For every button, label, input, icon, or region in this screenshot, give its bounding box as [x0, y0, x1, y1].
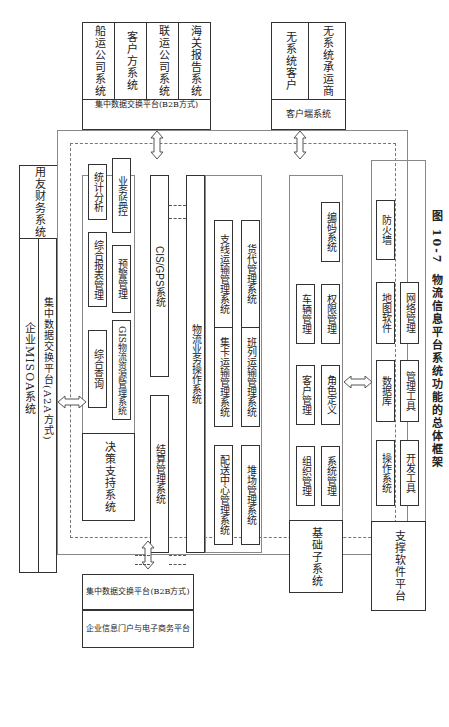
module-freight-forwarding: 货代管理系统	[241, 220, 260, 328]
module-customer-management: 客户管理	[296, 365, 315, 425]
module-truck-transport: 集卡运输管理系统	[214, 327, 233, 427]
support-software-platform: 支撑软件平台	[371, 521, 426, 611]
base-subsystem: 基础子系统	[289, 520, 343, 593]
connector-arrows-settlement	[169, 555, 186, 565]
module-permission-management: 权限管理	[321, 284, 340, 344]
decision-support-system: 决策支持系统	[82, 433, 135, 521]
module-organization-management: 组织管理	[296, 446, 315, 506]
module-role-definition: 角色定义	[321, 365, 340, 425]
module-management-tools: 管理工具	[400, 360, 419, 422]
connector-arrows-gps	[169, 205, 186, 219]
external-system-customer: 客户方系统	[114, 22, 147, 100]
client-side-system: 客户端系统	[271, 99, 346, 130]
module-rail-transport: 班列运输管理系统	[241, 327, 260, 427]
b2b-exchange-top: 集中数据交换平台(B2B方式)	[82, 99, 211, 130]
figure-caption-number: 图 10-7	[428, 210, 444, 264]
module-yard-management: 堆场管理系统	[241, 445, 260, 545]
client-no-system-carrier: 无系统承运商	[308, 22, 346, 100]
connector-arrows-decision	[135, 555, 150, 565]
module-firewall: 防火墙	[376, 200, 395, 260]
b2b-exchange-bottom: 集中数据交换平台(B2B方式)	[82, 574, 194, 610]
figure-caption: 图 10-7 物流信息平台系统功能的总体框架	[428, 210, 444, 510]
module-statistical-analysis: 统计分析	[88, 164, 107, 220]
finance-system-box: 用友财务系统	[19, 165, 58, 239]
external-system-intermodal: 联运公司系统	[146, 22, 179, 100]
double-arrow-support	[343, 375, 373, 389]
client-systems-group: 无系统客户 无系统承运商 客户端系统	[271, 22, 346, 130]
enterprise-portal-ecommerce: 企业信息门户与电子商务平台	[82, 610, 194, 648]
external-system-shipping: 船运公司系统	[82, 22, 115, 100]
module-vehicle-management: 车辆管理	[296, 284, 315, 344]
module-alert-management: 预警管理	[112, 245, 131, 313]
cis-gps-system: CIS/GPS系统	[150, 175, 169, 377]
client-no-system-customer: 无系统客户	[271, 22, 309, 100]
module-network-management: 网络管理	[400, 282, 419, 344]
module-feeder-transport: 支线运输管理系统	[214, 220, 233, 328]
settlement-management-system: 结算管理系统	[150, 395, 169, 553]
logistics-operations-system: 物流业务操作系统	[186, 175, 205, 553]
module-gis-resource-management: GIS物流资源管理系统	[112, 320, 131, 420]
external-system-customs: 海关报告系统	[178, 22, 211, 100]
double-arrow-top-b2b	[150, 130, 164, 160]
module-development-tools: 开发工具	[400, 440, 419, 506]
double-arrow-client	[293, 130, 307, 160]
module-operating-system: 操作系统	[376, 440, 395, 506]
figure-caption-title: 物流信息平台系统功能的总体框架	[428, 274, 444, 469]
module-distribution-center: 配送中心管理系统	[214, 445, 233, 545]
external-systems-top-group: 船运公司系统 客户方系统 联运公司系统 海关报告系统 集中数据交换平台(B2B方…	[82, 22, 211, 130]
module-system-management: 系统管理	[321, 446, 340, 506]
module-database: 数据库	[376, 360, 395, 422]
module-map-software: 地图软件	[376, 282, 395, 344]
module-coding-system: 编码系统	[321, 202, 340, 262]
module-report-management: 综合报表管理	[88, 232, 107, 307]
module-business-monitoring: 业务监控	[112, 158, 131, 233]
double-arrow-a2a	[57, 395, 87, 409]
module-comprehensive-query: 综合查询	[88, 330, 107, 408]
